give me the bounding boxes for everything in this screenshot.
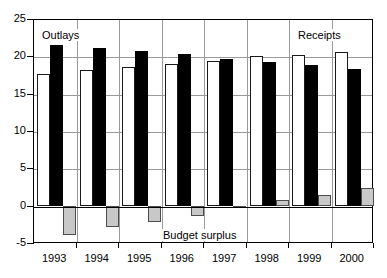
bar-chart: -50510152025 199319941995199619971998199… <box>0 0 387 278</box>
y-tick-0 <box>27 206 34 207</box>
bar-outlays-2000 <box>348 69 361 206</box>
x-tick <box>288 243 289 248</box>
y-tick-label: 10 <box>0 125 26 136</box>
bar-outlays-1999 <box>305 65 318 205</box>
bar-receipts-1995 <box>122 67 135 206</box>
y-tick-20 <box>27 56 34 57</box>
y-tick--5 <box>27 243 34 244</box>
x-tick-label-2000: 2000 <box>329 252 375 264</box>
x-tick-label-1995: 1995 <box>116 252 162 264</box>
bar-receipts-1999 <box>292 55 305 206</box>
y-tick-5 <box>27 168 34 169</box>
x-tick-label-1993: 1993 <box>31 252 77 264</box>
x-tick <box>203 243 204 248</box>
bar-outlays-1998 <box>263 62 276 205</box>
bar-receipts-1998 <box>250 56 263 205</box>
category-separator <box>77 20 78 242</box>
bar-receipts-1997 <box>207 61 220 206</box>
bar-surplus-1994 <box>106 206 119 228</box>
y-tick-label: 25 <box>0 13 26 24</box>
bar-receipts-1996 <box>165 64 178 206</box>
y-tick-10 <box>27 131 34 132</box>
bar-receipts-1993 <box>37 74 50 205</box>
bar-outlays-1997 <box>220 59 233 206</box>
y-tick-label: 20 <box>0 50 26 61</box>
bar-surplus-1995 <box>148 206 161 222</box>
gridline-y-20 <box>34 57 372 58</box>
bar-surplus-2000 <box>361 188 374 206</box>
y-tick-label: 0 <box>0 200 26 211</box>
x-tick-label-1996: 1996 <box>159 252 205 264</box>
bar-outlays-1993 <box>50 45 63 206</box>
x-tick <box>373 243 374 248</box>
bar-surplus-1998 <box>276 200 289 206</box>
category-separator <box>247 20 248 242</box>
x-tick-label-1998: 1998 <box>244 252 290 264</box>
bar-surplus-1999 <box>318 195 331 205</box>
x-tick-label-1994: 1994 <box>74 252 120 264</box>
x-tick <box>331 243 332 248</box>
category-separator <box>162 20 163 242</box>
y-tick-label: -5 <box>0 237 26 248</box>
x-tick <box>118 243 119 248</box>
x-tick <box>246 243 247 248</box>
annotation-budget-surplus: Budget surplus <box>161 229 238 241</box>
bar-outlays-1995 <box>135 51 148 206</box>
bar-receipts-2000 <box>335 52 348 206</box>
bar-outlays-1996 <box>178 54 191 206</box>
x-tick-label-1997: 1997 <box>201 252 247 264</box>
category-separator <box>204 20 205 242</box>
x-tick <box>76 243 77 248</box>
annotation-outlays: Outlays <box>40 29 81 41</box>
category-separator <box>289 20 290 242</box>
category-separator <box>119 20 120 242</box>
y-tick-15 <box>27 94 34 95</box>
category-separator <box>332 20 333 242</box>
bar-receipts-1994 <box>80 70 93 206</box>
y-tick-25 <box>27 19 34 20</box>
bar-outlays-1994 <box>93 48 106 206</box>
zero-line <box>34 207 372 208</box>
y-tick-label: 5 <box>0 162 26 173</box>
y-tick-label: 15 <box>0 88 26 99</box>
annotation-receipts: Receipts <box>296 29 343 41</box>
x-tick-label-1999: 1999 <box>286 252 332 264</box>
bar-surplus-1993 <box>63 206 76 235</box>
x-tick <box>161 243 162 248</box>
